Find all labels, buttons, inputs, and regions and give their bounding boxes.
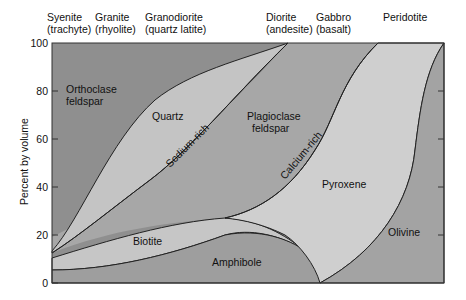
rock-diorite: Diorite: [266, 11, 297, 23]
y-tick-20: 20: [36, 229, 48, 241]
label-biotite: Biotite: [133, 235, 162, 247]
rock-gabbro-volcanic: (basalt): [316, 23, 351, 35]
label-orthoclase-2: feldspar: [66, 95, 104, 107]
rock-syenite-volcanic: (trachyte): [47, 23, 91, 35]
y-tick-100: 100: [30, 37, 48, 49]
rock-gabbro: Gabbro: [316, 11, 351, 23]
label-pyroxene: Pyroxene: [322, 178, 367, 190]
y-tick-0: 0: [42, 277, 48, 289]
rock-granodiorite-volcanic: (quartz latite): [145, 23, 206, 35]
y-tick-40: 40: [36, 181, 48, 193]
rock-granodiorite: Granodiorite: [145, 11, 203, 23]
rock-granite: Granite: [95, 11, 130, 23]
y-tick-80: 80: [36, 85, 48, 97]
igneous-rock-mineral-diagram: 0 20 40 60 80 100 Percent by volume Syen…: [0, 0, 466, 300]
label-plagioclase-1: Plagioclase: [247, 110, 301, 122]
label-plagioclase-2: feldspar: [252, 122, 290, 134]
rock-granite-volcanic: (rhyolite): [95, 23, 136, 35]
rock-diorite-volcanic: (andesite): [266, 23, 313, 35]
label-amphibole: Amphibole: [212, 256, 262, 268]
y-tick-60: 60: [36, 133, 48, 145]
label-orthoclase-1: Orthoclase: [66, 83, 117, 95]
y-axis-label: Percent by volume: [18, 118, 30, 205]
label-quartz: Quartz: [152, 110, 184, 122]
rock-syenite: Syenite: [47, 11, 82, 23]
label-olivine: Olivine: [388, 226, 420, 238]
rock-peridotite: Peridotite: [383, 11, 428, 23]
